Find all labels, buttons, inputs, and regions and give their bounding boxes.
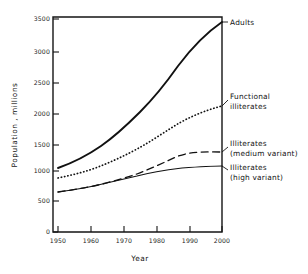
- x-tick-label-2000: 2000: [214, 237, 230, 244]
- y-tick-label-1500: 1500: [34, 141, 50, 148]
- y-axis-tick-labels: 0 500 1000 1500 2000 2500 3000 3500: [34, 15, 50, 235]
- label-leaders: [222, 22, 228, 170]
- curve-adults: [58, 22, 222, 168]
- x-axis-ticks: [58, 226, 222, 232]
- x-tick-label-1990: 1990: [182, 237, 198, 244]
- label-illiterates-medium-line2: (medium variant): [230, 149, 298, 158]
- series-annotations: Adults Functional illiterates Illiterate…: [230, 18, 298, 182]
- x-tick-label-1980: 1980: [149, 237, 165, 244]
- y-tick-label-2000: 2000: [34, 110, 50, 117]
- label-functional-illiterates-line1: Functional: [230, 92, 270, 101]
- y-tick-label-1000: 1000: [34, 167, 50, 174]
- label-illiterates-high-line1: Illiterates: [230, 163, 267, 172]
- x-axis-title: Year: [130, 254, 149, 263]
- y-axis-title: Population , millions: [10, 83, 19, 168]
- label-adults: Adults: [230, 18, 254, 27]
- series-curves: [58, 22, 222, 192]
- x-tick-label-1960: 1960: [83, 237, 99, 244]
- label-functional-illiterates-line2: illiterates: [230, 102, 267, 111]
- y-tick-label-500: 500: [38, 197, 50, 204]
- y-axis-ticks: [53, 19, 59, 232]
- y-tick-label-3500: 3500: [34, 15, 50, 22]
- curve-illiterates-high-variant: [58, 166, 222, 192]
- y-tick-label-2500: 2500: [34, 79, 50, 86]
- x-tick-label-1970: 1970: [116, 237, 132, 244]
- x-tick-label-1950: 1950: [50, 237, 66, 244]
- y-tick-label-0: 0: [46, 228, 50, 235]
- y-tick-label-3000: 3000: [34, 48, 50, 55]
- label-illiterates-medium-line1: Illiterates: [230, 139, 267, 148]
- plot-frame: [53, 17, 222, 232]
- label-illiterates-high-line2: (high variant): [230, 173, 283, 182]
- chart-figure: 0 500 1000 1500 2000 2500 3000 3500 1950…: [0, 0, 308, 274]
- x-axis-tick-labels: 1950 1960 1970 1980 1990 2000: [50, 237, 230, 244]
